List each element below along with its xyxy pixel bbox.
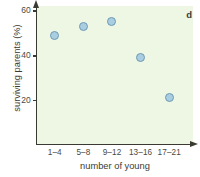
panel-label: d (186, 9, 192, 20)
y-axis-line (36, 6, 37, 145)
plot-area (37, 6, 193, 145)
x-tick-label: 17–21 (152, 148, 186, 157)
x-axis-title: number of young (37, 161, 193, 171)
x-axis-arrowhead-icon (190, 141, 198, 147)
scatter-chart-figure: 204060 1–45–89–1213–1617–21 surviving pa… (0, 0, 200, 177)
data-point (50, 31, 59, 40)
x-axis-line (36, 144, 192, 145)
y-axis-title: surviving parents (%) (12, 0, 22, 138)
y-tick-mark (33, 55, 36, 56)
y-axis-arrowhead-icon (33, 0, 39, 8)
data-point (79, 22, 88, 31)
y-tick-mark (33, 10, 36, 11)
y-tick-mark (33, 100, 36, 101)
